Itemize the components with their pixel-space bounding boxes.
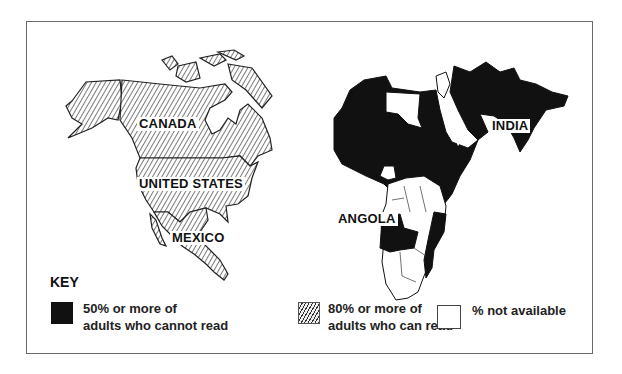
asia-shape: [450, 62, 568, 152]
arctic-island: [176, 62, 200, 82]
label-india: INDIA: [490, 119, 530, 133]
legend-label-can-read: 80% or more of adults who can read: [291, 300, 453, 334]
label-mexico: MEXICO: [170, 231, 226, 245]
arctic-island: [228, 64, 272, 108]
legend-swatch-cannot-read: [51, 302, 73, 324]
legend-label-not-available: % not available: [472, 302, 566, 319]
alaska-shape: [66, 80, 122, 138]
arctic-island: [200, 54, 226, 66]
key-title: KEY: [50, 274, 79, 290]
label-angola: ANGOLA: [336, 212, 398, 226]
arctic-island: [162, 56, 178, 70]
africa-asia: [334, 62, 568, 300]
levant-shape: [436, 72, 450, 98]
label-united-states: UNITED STATES: [137, 177, 245, 191]
north-america: [66, 50, 272, 280]
legend-label-cannot-read: 50% or more of adults who cannot read: [83, 300, 228, 334]
legend-swatch-not-available: [437, 305, 461, 329]
label-canada: CANADA: [137, 117, 199, 131]
